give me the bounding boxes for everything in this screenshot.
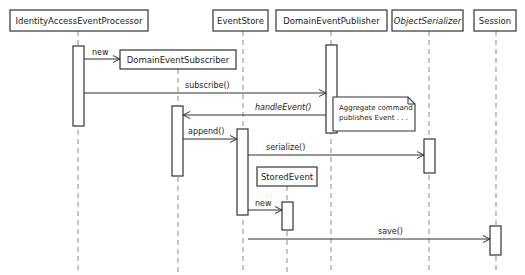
message: new (248, 199, 282, 214)
participant-se: StoredEvent (257, 167, 317, 186)
activation-bar-es (237, 129, 248, 215)
message: new (84, 48, 120, 63)
message: handleEvent() (183, 103, 326, 119)
participant-des: DomainEventSubscriber (120, 50, 236, 69)
activation-bar-se (282, 202, 293, 230)
sequence-diagram: newsubscribe()handleEvent()append()seria… (0, 0, 525, 275)
message: serialize() (248, 143, 424, 159)
message-label: subscribe() (185, 81, 230, 90)
participant-dep: DomainEventPublisher (276, 10, 387, 31)
participant-label: EventStore (217, 16, 264, 26)
participant-label: Session (479, 16, 511, 26)
message-label: save() (378, 227, 403, 236)
participant-sess: Session (474, 10, 516, 31)
message-label: handleEvent() (255, 103, 311, 112)
message-label: append() (188, 127, 224, 136)
message-label: new (255, 199, 272, 208)
note-text: Aggregate command (339, 104, 413, 112)
participant-label: StoredEvent (261, 172, 314, 182)
activation-bar-sess (490, 226, 501, 255)
participant-label: ObjectSerializer (394, 16, 462, 26)
participant-label: DomainEventSubscriber (127, 55, 230, 65)
message: subscribe() (84, 81, 326, 97)
activation-bar-des (172, 106, 183, 176)
message: append() (183, 127, 237, 143)
note-text: publishes Event . . . (339, 114, 408, 122)
activation-bar-os (424, 139, 435, 173)
activation-bar-iaep (73, 46, 84, 126)
participant-os: ObjectSerializer (392, 10, 463, 31)
participant-label: IdentityAccessEventProcessor (16, 16, 143, 26)
message-label: new (92, 48, 109, 57)
participants: IdentityAccessEventProcessorDomainEventS… (10, 10, 516, 186)
message-label: serialize() (266, 143, 305, 152)
note: Aggregate commandpublishes Event . . . (333, 97, 415, 131)
participant-es: EventStore (213, 10, 268, 31)
participant-label: DomainEventPublisher (283, 16, 380, 26)
participant-iaep: IdentityAccessEventProcessor (10, 10, 148, 31)
